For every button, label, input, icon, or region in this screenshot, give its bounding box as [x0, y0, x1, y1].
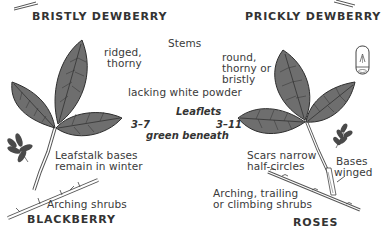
stems-shared-trait: lacking white powder: [128, 87, 242, 98]
leaflets-heading: Leaflets: [176, 106, 221, 117]
leaflets-shared-trait: green beneath: [146, 130, 229, 141]
title-blackberry: BLACKBERRY: [27, 213, 116, 226]
leafstalk-note: Leafstalk bases remain in winter: [55, 150, 143, 172]
stem-cross-section-icon: [356, 46, 369, 74]
leaflets-left-count: 3–7: [131, 119, 150, 130]
title-roses: ROSES: [293, 216, 338, 229]
leaflets-right-count: 3–11: [216, 119, 242, 130]
corner-stem-fragment-right: [334, 0, 355, 7]
roses-habit-note: Arching, trailing or climbing shrubs: [213, 188, 312, 210]
rose-small-leaf-icon: [332, 122, 354, 148]
scars-note: Scars narrow half-circles: [247, 150, 317, 172]
stems-right-description: round, thorny or bristly: [222, 52, 271, 85]
roses-habit-line-2: or climbing shrubs: [213, 199, 312, 210]
stems-right-line-3: bristly: [222, 74, 271, 85]
blackberry-small-leaf-icon: [6, 132, 34, 163]
leafstalk-note-line-2: remain in winter: [55, 161, 143, 172]
stems-left-line-2: thorny: [103, 58, 142, 69]
title-prickly-dewberry: PRICKLY DEWBERRY: [245, 10, 381, 23]
title-bristly-dewberry: BRISTLY DEWBERRY: [32, 10, 167, 23]
stems-left-description: ridged, thorny: [103, 47, 142, 69]
blackberry-habit-note: Arching shrubs: [47, 199, 127, 210]
bases-note-line-2: winged: [334, 167, 373, 178]
stems-heading: Stems: [168, 38, 201, 49]
corner-stem-fragment-left: [14, 2, 38, 10]
scars-note-line-2: half-circles: [247, 161, 317, 172]
bases-winged-note: Bases winged: [334, 156, 373, 178]
